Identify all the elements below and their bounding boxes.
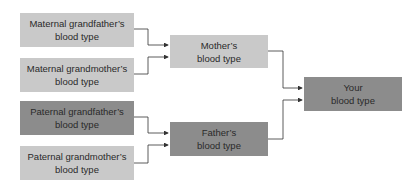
box-label: Maternal grandfather’s — [29, 17, 124, 30]
box-label: blood type — [55, 118, 99, 131]
paternal-grandmother-box: Paternal grandmother’s blood type — [20, 146, 134, 180]
father-box: Father’s blood type — [170, 122, 268, 156]
box-label: Father’s — [202, 126, 237, 139]
box-label: Your — [343, 81, 362, 94]
maternal-grandfather-box: Maternal grandfather’s blood type — [20, 13, 134, 47]
maternal-grandmother-box: Maternal grandmother’s blood type — [20, 58, 134, 92]
box-label: Paternal grandfather’s — [30, 105, 124, 118]
mother-box: Mother’s blood type — [170, 35, 268, 68]
box-label: blood type — [55, 163, 99, 176]
box-label: Mother’s — [201, 39, 238, 52]
paternal-grandfather-box: Paternal grandfather’s blood type — [20, 101, 134, 135]
box-label: Paternal grandmother’s — [28, 150, 127, 163]
box-label: blood type — [331, 94, 375, 107]
box-label: blood type — [197, 52, 241, 65]
box-label: blood type — [55, 30, 99, 43]
your-blood-type-box: Your blood type — [304, 77, 402, 111]
box-label: blood type — [55, 75, 99, 88]
box-label: Maternal grandmother’s — [27, 62, 128, 75]
box-label: blood type — [197, 139, 241, 152]
